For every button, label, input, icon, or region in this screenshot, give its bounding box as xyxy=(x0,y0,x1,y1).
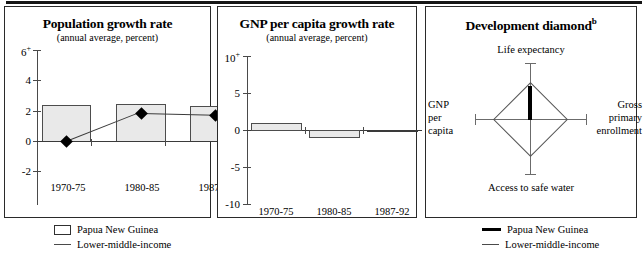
diamond-label-enroll-line2: primary xyxy=(574,111,642,124)
y-ticklabel-6: 6+ xyxy=(0,44,31,58)
y-ticklabel-5: 5 xyxy=(211,87,240,99)
y-tick-10 xyxy=(243,56,251,57)
y-ticklabel-0: 0 xyxy=(0,135,31,147)
x-tick-gnp-2 xyxy=(363,127,364,134)
y-tick-neg10 xyxy=(243,204,251,205)
diamond-axis-cap-top xyxy=(525,63,536,64)
plot-area-gnp: 10+ 5 0 -5 -10 1970-75 1980-85 1987-92 xyxy=(215,6,422,218)
legend-label-country-diamond: Papua New Guinea xyxy=(507,224,588,235)
diamond-plot-area: Life expectancy Access to safe water GNP… xyxy=(422,6,644,218)
diamond-label-gnp-line2: per xyxy=(428,111,472,124)
x-label-gnp-1970-75: 1970-75 xyxy=(245,206,307,217)
legend-swatch-thick-line-icon xyxy=(482,228,501,231)
x-tick-2 xyxy=(165,139,166,146)
bar-gnp-1987-92 xyxy=(367,130,418,132)
y-tick-6 xyxy=(33,50,41,51)
legend-swatch-line-icon-diamond xyxy=(482,244,499,245)
x-label-gnp-1980-85: 1980-85 xyxy=(303,206,365,217)
diamond-label-gnp-line1: GNP xyxy=(428,98,472,111)
y-ticklabel-neg5: -5 xyxy=(211,161,240,173)
diamond-label-gnp-line3: capita xyxy=(428,124,472,137)
diamond-axis-cap-left xyxy=(475,114,476,125)
y-tick-neg2 xyxy=(33,171,41,172)
y-ticklabel-neg10: -10 xyxy=(211,198,240,210)
legend-item-group-diamond: Lower-middle-income xyxy=(482,239,599,250)
diamond-label-gross-primary-enrollment: Gross primary enrollment xyxy=(574,98,642,137)
figure-panels: Population growth rate (annual average, … xyxy=(0,6,644,259)
legend-item-country-diamond: Papua New Guinea xyxy=(482,224,588,235)
bar-gnp-1980-85 xyxy=(309,130,360,138)
legend-label-country: Papua New Guinea xyxy=(77,224,158,235)
legend-label-group: Lower-middle-income xyxy=(77,239,171,250)
diamond-axis-cap-bottom xyxy=(525,174,536,175)
y-ticklabel-0-gnp: 0 xyxy=(211,124,240,136)
y-ticklabel-2: 2 xyxy=(0,105,31,117)
y-ticklabel-neg2: -2 xyxy=(0,165,31,177)
x-label-1970-75: 1970-75 xyxy=(37,182,99,193)
panel-gnp-growth: GNP per capita growth rate (annual avera… xyxy=(215,6,422,259)
panel-development-diamond: Development diamondb Life expectancy Acc… xyxy=(422,6,644,259)
y-tick-4 xyxy=(33,80,41,81)
diamond-label-enroll-line1: Gross xyxy=(574,98,642,111)
top-divider-rule xyxy=(6,1,642,4)
x-tick-1 xyxy=(91,139,92,146)
legend-item-country-population: Papua New Guinea xyxy=(54,224,158,235)
bar-gnp-1970-75 xyxy=(251,123,302,131)
x-tick-gnp-1 xyxy=(305,127,306,134)
diamond-label-life-expectancy: Life expectancy xyxy=(463,44,599,55)
diamond-label-gnp-per-capita: GNP per capita xyxy=(428,98,472,137)
y-tick-neg5 xyxy=(243,167,251,168)
legend-item-group-population: Lower-middle-income xyxy=(54,239,171,250)
y-ticklabel-10: 10+ xyxy=(211,50,240,64)
diamond-label-access-safe-water: Access to safe water xyxy=(453,182,609,193)
panel-population-growth: Population growth rate (annual average, … xyxy=(0,6,215,259)
diamond-label-enroll-line3: enrollment xyxy=(574,124,642,137)
diamond-country-segment xyxy=(528,86,532,120)
y-tick-5 xyxy=(243,93,251,94)
y-tick-2 xyxy=(33,111,41,112)
legend-label-group-diamond: Lower-middle-income xyxy=(505,239,599,250)
legend-swatch-line-icon xyxy=(54,244,71,245)
plot-area-population: 6+ 4 2 0 -2 1970-75 1980-85 1987-92 xyxy=(0,6,215,218)
y-ticklabel-4: 4 xyxy=(0,74,31,86)
legend-swatch-box-icon xyxy=(54,225,71,235)
x-label-1980-85: 1980-85 xyxy=(111,182,173,193)
x-label-gnp-1987-92: 1987-92 xyxy=(361,206,423,217)
